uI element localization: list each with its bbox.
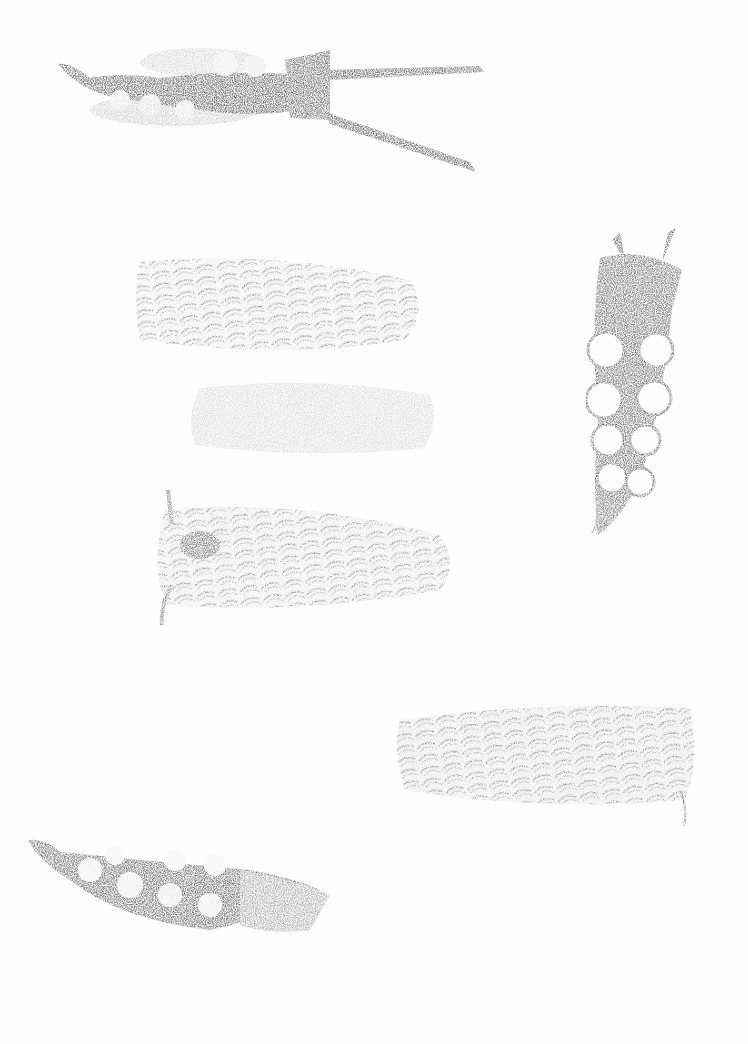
slug-figure-7 xyxy=(28,840,330,932)
slug-figure-5 xyxy=(586,228,682,536)
slug-figure-1 xyxy=(58,48,484,172)
slug-figure-4 xyxy=(158,490,451,625)
slug-figure-2 xyxy=(136,259,419,350)
slug-figure-3 xyxy=(191,383,434,453)
sea-slug-prints xyxy=(0,0,748,1044)
slug-figure-6 xyxy=(397,706,694,826)
artwork-canvas xyxy=(0,0,748,1044)
